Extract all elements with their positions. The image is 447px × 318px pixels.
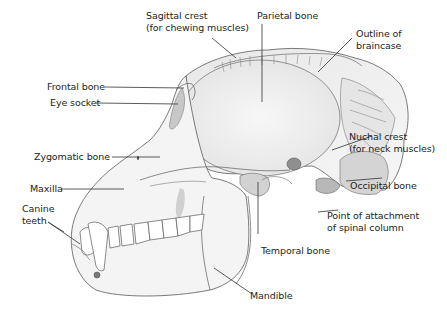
label-line: Outline of: [356, 28, 402, 40]
label-outline-braincase: Outline of braincase: [356, 28, 402, 52]
label-line: of spinal column: [327, 222, 419, 234]
label-line: (for chewing muscles): [146, 22, 249, 34]
label-zygomatic-bone: Zygomatic bone: [34, 151, 110, 163]
label-eye-socket: Eye socket: [50, 97, 100, 109]
label-mandible: Mandible: [250, 290, 292, 302]
braincase-outline: [180, 60, 340, 176]
label-parietal-bone: Parietal bone: [257, 10, 318, 22]
skull-diagram: Sagittal crest (for chewing muscles) Par…: [0, 0, 447, 318]
label-line: Nuchal crest: [349, 131, 435, 143]
label-line: (for neck muscles): [349, 143, 435, 155]
label-frontal-bone: Frontal bone: [47, 81, 105, 93]
label-line: braincase: [356, 40, 402, 52]
label-point-of-attachment: Point of attachment of spinal column: [327, 210, 419, 234]
label-occipital-bone: Occipital bone: [350, 180, 417, 192]
label-line: Sagittal crest: [146, 10, 249, 22]
label-temporal-bone: Temporal bone: [261, 245, 330, 257]
label-maxilla: Maxilla: [30, 183, 63, 195]
label-sagittal-crest: Sagittal crest (for chewing muscles): [146, 10, 249, 34]
label-nuchal-crest: Nuchal crest (for neck muscles): [349, 131, 435, 155]
label-line: Point of attachment: [327, 210, 419, 222]
label-line: teeth: [22, 215, 54, 227]
label-line: Canine: [22, 203, 54, 215]
label-canine-teeth: Canine teeth: [22, 203, 54, 227]
